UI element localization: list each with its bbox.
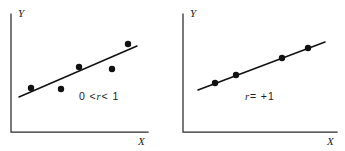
panel-perfect-positive-correlation: Y X r= +1 — [172, 0, 345, 151]
y-axis-label: Y — [18, 8, 24, 19]
axis-lines-left — [11, 14, 148, 132]
panel-right-plot — [172, 0, 345, 151]
correlation-suffix: = +1 — [250, 90, 275, 102]
correlation-annotation: 0 <r< 1 — [79, 91, 119, 103]
data-point — [125, 41, 131, 47]
x-axis-label: X — [138, 136, 145, 147]
correlation-suffix: < 1 — [102, 90, 120, 102]
data-point — [279, 55, 285, 61]
correlation-scatterplot-figure: Y X 0 <r< 1 Y X r= +1 — [0, 0, 345, 151]
correlation-prefix: 0 < — [79, 90, 97, 102]
trend-line-left — [19, 46, 137, 97]
correlation-annotation: r= +1 — [245, 91, 275, 103]
data-point — [233, 72, 239, 78]
x-axis-label: X — [327, 136, 334, 147]
data-point — [76, 64, 82, 70]
data-point — [305, 45, 311, 51]
data-point — [109, 66, 115, 72]
panel-positive-partial-correlation: Y X 0 <r< 1 — [0, 0, 172, 151]
data-point — [28, 85, 34, 91]
data-point — [212, 80, 218, 86]
axis-lines-right — [183, 14, 337, 132]
data-point — [58, 86, 64, 92]
y-axis-label: Y — [190, 8, 196, 19]
panel-left-plot — [0, 0, 172, 151]
